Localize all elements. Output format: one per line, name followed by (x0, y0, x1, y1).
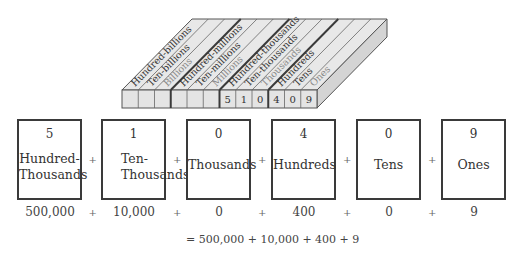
box-place-name: Thousands (188, 157, 249, 173)
place-name-line1: Hundreds (273, 157, 334, 173)
plus-sign: + (89, 154, 97, 165)
place-name-line1: Ten- (121, 151, 164, 167)
place-name-line2: Thousands (121, 167, 164, 183)
block-digit: 9 (306, 94, 312, 105)
box-place-name: Hundreds (273, 157, 334, 173)
box-digit: 1 (103, 127, 164, 141)
box-place-name: Hundred-Thousands (19, 151, 80, 183)
block-digit: 5 (224, 94, 230, 105)
place-value: 10,000 (94, 205, 174, 219)
block-digit: 4 (273, 94, 279, 105)
plus-sign: + (173, 154, 181, 165)
place-name-line1: Ones (443, 157, 504, 173)
box-digit: 4 (273, 127, 334, 141)
block-digit: 0 (289, 94, 295, 105)
place-value: 0 (179, 205, 259, 219)
box-digit: 0 (358, 127, 419, 141)
place-name-line2: Thousands (19, 167, 80, 183)
place-value: 0 (349, 205, 429, 219)
plus-sign: + (343, 154, 351, 165)
plus-sign: + (258, 154, 266, 165)
place-value-block: Hundred-billionsTen-billionsBillionsHund… (0, 0, 515, 120)
box-place-name: Ones (443, 157, 504, 173)
box-place-name: Tens (358, 157, 419, 173)
place-box-4: 4Hundreds (271, 119, 336, 200)
block-digit: 0 (257, 94, 263, 105)
place-value: 9 (434, 205, 514, 219)
place-box-2: 1Ten-Thousands (101, 119, 166, 200)
box-digit: 5 (19, 127, 80, 141)
place-name-line1: Tens (358, 157, 419, 173)
place-name-line1: Thousands (188, 157, 249, 173)
place-value: 500,000 (10, 205, 90, 219)
expanded-form-equation: = 500,000 + 10,000 + 400 + 9 (186, 233, 359, 246)
box-digit: 9 (443, 127, 504, 141)
place-box-6: 9Ones (441, 119, 506, 200)
block-digit: 1 (241, 94, 247, 105)
box-digit: 0 (188, 127, 249, 141)
place-name-line1: Hundred- (19, 151, 80, 167)
place-value: 400 (264, 205, 344, 219)
place-box-1: 5Hundred-Thousands (17, 119, 82, 200)
place-box-3: 0Thousands (186, 119, 251, 200)
plus-sign: + (428, 154, 436, 165)
box-place-name: Ten-Thousands (103, 151, 164, 183)
place-box-5: 0Tens (356, 119, 421, 200)
